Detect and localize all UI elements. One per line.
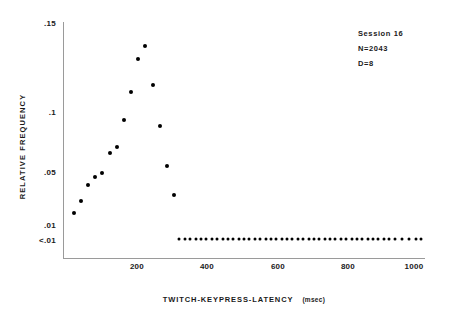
data-point bbox=[108, 151, 112, 155]
floor-data-point bbox=[232, 238, 235, 241]
floor-data-point bbox=[253, 238, 256, 241]
data-point bbox=[86, 183, 90, 187]
floor-data-point bbox=[400, 238, 403, 241]
floor-data-point bbox=[210, 238, 213, 241]
floor-data-point bbox=[323, 238, 326, 241]
data-point bbox=[143, 44, 147, 48]
floor-data-point bbox=[377, 238, 380, 241]
floor-data-point bbox=[199, 238, 202, 241]
floor-data-point bbox=[334, 238, 337, 241]
data-point bbox=[79, 199, 83, 203]
floor-data-point bbox=[243, 238, 246, 241]
floor-data-point bbox=[189, 238, 192, 241]
floor-data-point bbox=[286, 238, 289, 241]
data-point bbox=[151, 83, 155, 87]
floor-data-point bbox=[345, 238, 348, 241]
floor-data-point bbox=[205, 238, 208, 241]
floor-data-point bbox=[296, 238, 299, 241]
data-point bbox=[122, 118, 126, 122]
floor-data-point bbox=[280, 238, 283, 241]
floor-data-point bbox=[415, 238, 418, 241]
data-point bbox=[136, 57, 140, 61]
floor-data-point bbox=[248, 238, 251, 241]
floor-data-point bbox=[178, 238, 181, 241]
floor-data-point bbox=[302, 238, 305, 241]
floor-data-point bbox=[237, 238, 240, 241]
floor-data-point bbox=[372, 238, 375, 241]
floor-data-point bbox=[361, 238, 364, 241]
data-point bbox=[93, 175, 97, 179]
data-point bbox=[100, 171, 104, 175]
data-point bbox=[115, 145, 119, 149]
floor-data-point bbox=[216, 238, 219, 241]
floor-data-point bbox=[194, 238, 197, 241]
floor-data-point bbox=[259, 238, 262, 241]
data-point bbox=[158, 124, 162, 128]
plot-data-area bbox=[0, 0, 453, 310]
floor-data-point bbox=[355, 238, 358, 241]
data-point bbox=[172, 193, 176, 197]
floor-data-point bbox=[264, 238, 267, 241]
floor-data-point bbox=[312, 238, 315, 241]
floor-data-point bbox=[275, 238, 278, 241]
data-point bbox=[165, 164, 169, 168]
floor-data-point bbox=[420, 238, 423, 241]
data-point bbox=[72, 211, 76, 215]
floor-data-point bbox=[307, 238, 310, 241]
floor-data-point bbox=[393, 238, 396, 241]
floor-data-point bbox=[366, 238, 369, 241]
data-point bbox=[129, 90, 133, 94]
floor-data-point bbox=[407, 238, 410, 241]
floor-data-point bbox=[350, 238, 353, 241]
floor-data-point bbox=[183, 238, 186, 241]
floor-data-point bbox=[291, 238, 294, 241]
floor-data-point bbox=[382, 238, 385, 241]
floor-data-point bbox=[329, 238, 332, 241]
floor-data-point bbox=[269, 238, 272, 241]
floor-data-point bbox=[221, 238, 224, 241]
floor-data-point bbox=[226, 238, 229, 241]
floor-data-point bbox=[339, 238, 342, 241]
floor-data-point bbox=[388, 238, 391, 241]
scatter-plot-figure: .15 .1 .05 .01 <.01 200 400 600 800 1000… bbox=[0, 0, 453, 310]
floor-data-point bbox=[318, 238, 321, 241]
